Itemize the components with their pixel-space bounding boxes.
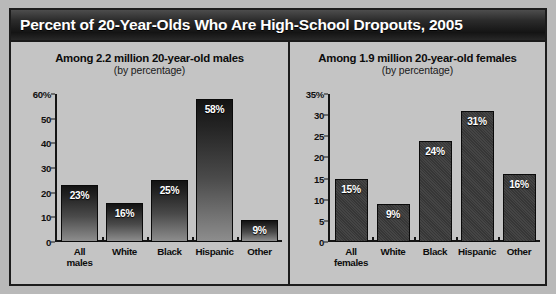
y-tick-label: 40	[41, 138, 51, 149]
bar-value-label: 25%	[152, 185, 187, 196]
y-axis: 05101520253035%	[290, 94, 328, 242]
y-tick-label: 50	[41, 113, 51, 124]
bar-chart-females: 05101520253035%15%9%24%31%16%	[290, 94, 545, 242]
x-tick-mark	[237, 237, 239, 242]
y-tick-label: 25	[314, 131, 324, 142]
bars-container: 15%9%24%31%16%	[330, 94, 540, 242]
bar: 16%	[503, 174, 536, 242]
x-tick-mark	[498, 237, 500, 242]
panel-females-header: Among 1.9 million 20-year-old females (b…	[290, 42, 545, 76]
bar-value-label: 9%	[242, 225, 277, 236]
x-axis-label-line: White	[112, 246, 137, 257]
x-axis-label-line: Hispanic	[458, 246, 496, 257]
bar: 31%	[461, 111, 494, 242]
bar-chart-males: 0102030405060%23%16%25%58%9%	[11, 94, 288, 242]
bar: 9%	[241, 220, 278, 242]
x-tick-mark	[372, 237, 374, 242]
x-axis-label-line: Black	[157, 246, 181, 257]
panel-males: Among 2.2 million 20-year-old males (by …	[11, 42, 288, 286]
y-tick-label: 30	[314, 110, 324, 121]
bar-value-label: 58%	[197, 104, 232, 115]
x-axis-label: Other	[507, 246, 531, 257]
y-tick-label: 35%	[306, 89, 324, 100]
y-tick-label: 30	[41, 163, 51, 174]
bar-value-label: 31%	[462, 116, 493, 127]
bar: 9%	[377, 204, 410, 242]
x-tick-mark	[147, 237, 149, 242]
x-tick-mark	[456, 237, 458, 242]
y-tick-label: 60%	[33, 89, 51, 100]
x-axis-label: White	[112, 246, 137, 257]
bars-container: 23%16%25%58%9%	[57, 94, 282, 242]
panel-males-subtitle: (by percentage)	[11, 65, 288, 76]
chart-figure: Percent of 20-Year-Olds Who Are High-Sch…	[9, 8, 547, 286]
x-axis-label-line: Other	[507, 246, 531, 257]
panel-females: Among 1.9 million 20-year-old females (b…	[288, 42, 545, 286]
x-tick-mark	[102, 237, 104, 242]
bar: 58%	[196, 99, 233, 242]
x-axis-label: Other	[247, 246, 271, 257]
x-axis-label-line: Black	[423, 246, 447, 257]
bar-value-label: 23%	[62, 190, 97, 201]
y-tick-label: 10	[41, 212, 51, 223]
bar-value-label: 24%	[420, 146, 451, 157]
x-axis-label-line: All	[66, 246, 92, 257]
x-tick-mark	[192, 237, 194, 242]
bar-value-label: 16%	[107, 208, 142, 219]
bar: 23%	[61, 185, 98, 242]
bar-value-label: 16%	[504, 179, 535, 190]
x-axis-label-line: Other	[247, 246, 271, 257]
y-tick-label: 20	[314, 152, 324, 163]
x-axis-label-line: Hispanic	[195, 246, 233, 257]
x-axis-label-line: All	[334, 246, 368, 257]
x-axis-label: Black	[423, 246, 447, 257]
y-axis: 0102030405060%	[11, 94, 55, 242]
y-tick-label: 20	[41, 187, 51, 198]
x-axis-label: Black	[157, 246, 181, 257]
y-tick-label: 15	[314, 173, 324, 184]
page-title: Percent of 20-Year-Olds Who Are High-Sch…	[11, 16, 463, 34]
x-axis-label: Hispanic	[458, 246, 496, 257]
bar: 15%	[335, 179, 368, 242]
panel-females-title: Among 1.9 million 20-year-old females	[290, 52, 545, 64]
x-axis-label-line: males	[66, 257, 92, 268]
bar-value-label: 15%	[336, 184, 367, 195]
bar: 16%	[106, 203, 143, 242]
x-axis-label: Hispanic	[195, 246, 233, 257]
chart-title-bar: Percent of 20-Year-Olds Who Are High-Sch…	[11, 10, 545, 42]
x-tick-mark	[414, 237, 416, 242]
x-axis-label-line: females	[334, 257, 368, 268]
bar: 24%	[419, 141, 452, 242]
x-axis-label: White	[381, 246, 406, 257]
y-tick-label: 10	[314, 194, 324, 205]
x-axis-label-line: White	[381, 246, 406, 257]
x-axis-label: Allmales	[66, 246, 92, 268]
x-axis-label: Allfemales	[334, 246, 368, 268]
panel-males-header: Among 2.2 million 20-year-old males (by …	[11, 42, 288, 76]
bar: 25%	[151, 180, 188, 242]
panel-females-subtitle: (by percentage)	[290, 65, 545, 76]
panel-males-title: Among 2.2 million 20-year-old males	[11, 52, 288, 64]
bar-value-label: 9%	[378, 209, 409, 220]
